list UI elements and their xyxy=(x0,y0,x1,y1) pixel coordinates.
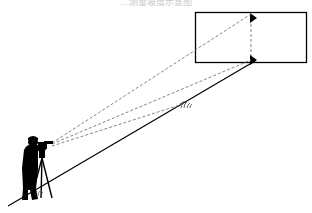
sight-line-bottom xyxy=(52,60,251,144)
sight-line-top xyxy=(52,14,251,143)
grass-tuft xyxy=(180,102,192,108)
sight-line-ground xyxy=(52,103,186,146)
slope-measurement-diagram xyxy=(0,0,312,213)
slope-line xyxy=(8,61,255,206)
